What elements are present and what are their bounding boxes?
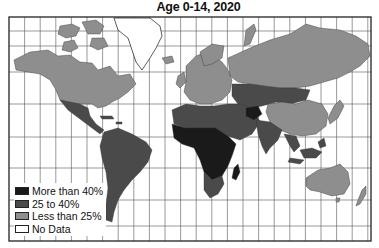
legend-swatch (15, 200, 29, 208)
legend-item: More than 40% (15, 185, 103, 198)
legend-swatch (15, 225, 29, 233)
legend-label: Less than 25% (32, 210, 101, 222)
legend-label: 25 to 40% (32, 198, 79, 210)
legend-item: No Data (15, 223, 103, 236)
legend-item: Less than 25% (15, 210, 103, 223)
legend-swatch (15, 212, 29, 220)
legend-item: 25 to 40% (15, 198, 103, 211)
legend: More than 40% 25 to 40% Less than 25% No… (14, 183, 106, 236)
legend-label: No Data (32, 223, 71, 235)
legend-swatch (15, 187, 29, 195)
legend-label: More than 40% (32, 185, 103, 197)
